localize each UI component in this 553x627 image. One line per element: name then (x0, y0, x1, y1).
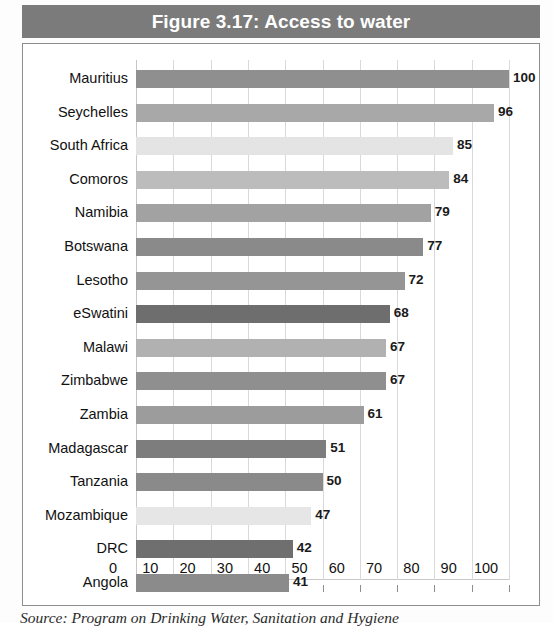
bar-row: South Africa85 (136, 129, 509, 163)
bar-value-tanzania: 50 (327, 472, 342, 490)
bar-lesotho[interactable] (136, 272, 405, 290)
bar-row: Tanzania50 (136, 465, 509, 499)
category-label-tanzania: Tanzania (0, 472, 128, 490)
figure-title: Figure 3.17: Access to water (22, 5, 540, 38)
bar-mozambique[interactable] (136, 507, 311, 525)
x-tick-label-100: 100 (474, 560, 498, 576)
bar-value-seychelles: 96 (498, 103, 513, 121)
bar-value-lesotho: 72 (409, 271, 424, 289)
category-label-south-africa: South Africa (0, 136, 128, 154)
bar-row: Zambia61 (136, 398, 509, 432)
bar-row: Botswana77 (136, 230, 509, 264)
bar-row: Namibia79 (136, 196, 509, 230)
bar-row: Zimbabwe67 (136, 364, 509, 398)
bar-value-namibia: 79 (435, 203, 450, 221)
bar-seychelles[interactable] (136, 104, 494, 122)
bar-tanzania[interactable] (136, 473, 323, 491)
bar-row: Lesotho72 (136, 264, 509, 298)
bar-row: eSwatini68 (136, 297, 509, 331)
x-tick-label-90: 90 (441, 560, 457, 576)
x-tick-label-80: 80 (403, 560, 419, 576)
bar-row: Comoros84 (136, 163, 509, 197)
x-tick-label-40: 40 (254, 560, 270, 576)
bar-row: Seychelles96 (136, 96, 509, 130)
bar-row: Madagascar51 (136, 432, 509, 466)
category-label-comoros: Comoros (0, 170, 128, 188)
bar-south-africa[interactable] (136, 137, 453, 155)
category-label-namibia: Namibia (0, 203, 128, 221)
bar-zimbabwe[interactable] (136, 372, 386, 390)
source-caption: Source: Program on Drinking Water, Sanit… (20, 609, 553, 627)
category-label-zambia: Zambia (0, 405, 128, 423)
bar-drc[interactable] (136, 540, 293, 558)
x-tick-label-30: 30 (217, 560, 233, 576)
category-label-eswatini: eSwatini (0, 304, 128, 322)
x-tick-label-0: 0 (109, 560, 117, 576)
bar-value-south-africa: 85 (457, 136, 472, 154)
x-tick-label-60: 60 (329, 560, 345, 576)
bar-value-botswana: 77 (427, 237, 442, 255)
category-label-zimbabwe: Zimbabwe (0, 371, 128, 389)
bar-value-mauritius: 100 (513, 69, 536, 87)
gridline-100 (509, 60, 510, 580)
bar-comoros[interactable] (136, 171, 449, 189)
bar-madagascar[interactable] (136, 440, 326, 458)
bar-botswana[interactable] (136, 238, 423, 256)
x-tick-label-20: 20 (180, 560, 196, 576)
bar-row: Malawi67 (136, 331, 509, 365)
bar-value-eswatini: 68 (394, 304, 409, 322)
bar-malawi[interactable] (136, 339, 386, 357)
bar-value-drc: 42 (297, 539, 312, 557)
category-label-seychelles: Seychelles (0, 103, 128, 121)
x-tick-label-70: 70 (366, 560, 382, 576)
bar-value-comoros: 84 (453, 170, 468, 188)
bar-value-malawi: 67 (390, 338, 405, 356)
x-tick-label-50: 50 (291, 560, 307, 576)
category-label-malawi: Malawi (0, 338, 128, 356)
plot-area: Mauritius100Seychelles96South Africa85Co… (136, 60, 509, 592)
chart-frame: Mauritius100Seychelles96South Africa85Co… (22, 43, 540, 606)
tick-100 (509, 585, 510, 592)
category-label-madagascar: Madagascar (0, 439, 128, 457)
bar-value-madagascar: 51 (330, 439, 345, 457)
category-label-mauritius: Mauritius (0, 69, 128, 87)
bar-value-zimbabwe: 67 (390, 371, 405, 389)
bar-value-mozambique: 47 (315, 506, 330, 524)
category-label-lesotho: Lesotho (0, 271, 128, 289)
category-label-drc: DRC (0, 539, 128, 557)
bar-namibia[interactable] (136, 204, 431, 222)
bar-eswatini[interactable] (136, 305, 390, 323)
bar-row: Mozambique47 (136, 499, 509, 533)
bar-zambia[interactable] (136, 406, 364, 424)
bar-row: Mauritius100 (136, 62, 509, 96)
category-label-mozambique: Mozambique (0, 506, 128, 524)
x-tick-label-10: 10 (142, 560, 158, 576)
category-label-botswana: Botswana (0, 237, 128, 255)
bar-value-zambia: 61 (368, 405, 383, 423)
bar-mauritius[interactable] (136, 70, 509, 88)
x-axis-tick-labels: 0102030405060708090100 (113, 560, 486, 584)
